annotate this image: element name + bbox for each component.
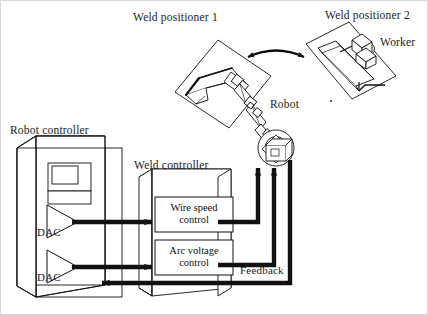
weld-positioner-2 xyxy=(306,22,396,102)
label-weld-positioner-1: Weld positioner 1 xyxy=(133,11,218,23)
arc-voltage-control-label: Arc voltage control xyxy=(157,245,231,269)
label-worker: Worker xyxy=(380,36,415,48)
label-dac-upper: DAC xyxy=(37,226,61,238)
label-robot: Robot xyxy=(270,98,299,110)
robot-controller-cabinet xyxy=(17,136,122,297)
arc-voltage-control-line2: control xyxy=(157,257,231,269)
wire-speed-control-label: Wire speed control xyxy=(157,202,231,226)
wire-speed-control-line2: control xyxy=(157,214,231,226)
label-feedback: Feedback xyxy=(240,264,284,276)
welding-cell-diagram: Weld positioner 1 Weld positioner 2 Work… xyxy=(0,0,428,315)
arc-voltage-control-line1: Arc voltage xyxy=(157,245,231,257)
label-dac-lower: DAC xyxy=(37,271,61,283)
positioner-rotation-arrow xyxy=(248,51,304,58)
label-weld-controller: Weld controller xyxy=(134,159,209,171)
label-robot-controller: Robot controller xyxy=(10,124,89,136)
label-weld-positioner-2: Weld positioner 2 xyxy=(325,9,410,21)
wire-speed-control-line1: Wire speed xyxy=(157,202,231,214)
